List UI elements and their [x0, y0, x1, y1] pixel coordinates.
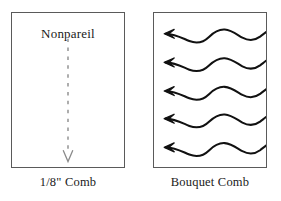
wavy-left-arrows-icon — [154, 13, 266, 167]
comb-comparison-figure: Nonpareil 1/8" Comb Bouquet Comb — [0, 0, 281, 201]
dashed-down-arrow-icon — [12, 13, 124, 167]
bouquet-caption: Bouquet Comb — [153, 172, 267, 192]
nonpareil-panel: Nonpareil — [11, 12, 125, 168]
bouquet-panel — [153, 12, 267, 168]
nonpareil-caption: 1/8" Comb — [11, 172, 125, 192]
